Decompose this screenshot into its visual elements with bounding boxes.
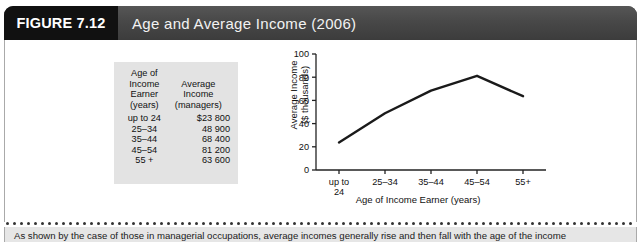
cell-category: 35–44 — [122, 134, 167, 145]
figure-container: FIGURE 7.12 Age and Average Income (2006… — [0, 0, 641, 242]
figure-caption: As shown by the case of those in manager… — [4, 227, 637, 242]
table-header-row: Age of Income Earner (years) Average Inc… — [122, 68, 230, 110]
table-row: 55 + 63 600 — [122, 155, 230, 166]
table-header-income: Average Income (managers) — [167, 68, 230, 110]
cell-income: 68 400 — [167, 134, 230, 145]
cell-income: 81 200 — [167, 145, 230, 156]
table-body: up to 24 $23 800 25–34 48 900 35–44 68 4… — [122, 110, 230, 166]
y-tick-label: 0 — [304, 165, 309, 175]
line-chart: Average Income ($ thousands) 02040608010… — [260, 48, 560, 213]
table-row: 45–54 81 200 — [122, 145, 230, 156]
header-inc-line2: Income — [167, 89, 230, 100]
table-head: Age of Income Earner (years) Average Inc… — [122, 68, 230, 110]
x-tick-label: 55+ — [515, 177, 531, 187]
x-tick-label: up to — [329, 177, 349, 187]
data-table: Age of Income Earner (years) Average Inc… — [122, 68, 230, 166]
cell-category: up to 24 — [122, 110, 167, 124]
y-tick-label: 60 — [299, 96, 309, 106]
table-header-category: Age of Income Earner (years) — [122, 68, 167, 110]
header-cat-line1: Age of — [122, 68, 167, 79]
table-row: up to 24 $23 800 — [122, 110, 230, 124]
figure-number-badge: FIGURE 7.12 — [4, 6, 118, 40]
data-table-container: Age of Income Earner (years) Average Inc… — [114, 62, 238, 184]
figure-header: FIGURE 7.12 Age and Average Income (2006… — [4, 6, 637, 40]
y-tick-label: 20 — [299, 142, 309, 152]
x-tick-label: 25–34 — [372, 177, 398, 187]
table-row: 35–44 68 400 — [122, 134, 230, 145]
x-tick-label: 45–54 — [464, 177, 490, 187]
header-inc-line1: Average — [167, 79, 230, 90]
cell-category: 55 + — [122, 155, 167, 166]
caption-text: As shown by the case of those in manager… — [5, 227, 636, 241]
header-cat-line4: (years) — [122, 100, 167, 111]
y-tick-label: 40 — [299, 119, 309, 129]
data-series-line — [339, 76, 523, 143]
cell-category: 45–54 — [122, 145, 167, 156]
figure-title: Age and Average Income (2006) — [132, 6, 356, 40]
plot-svg: 020406080100up to2425–3435–4445–5455+ — [290, 48, 552, 198]
figure-body: Age of Income Earner (years) Average Inc… — [4, 40, 637, 222]
table-row: 25–34 48 900 — [122, 124, 230, 135]
cell-income: 48 900 — [167, 124, 230, 135]
cell-category: 25–34 — [122, 124, 167, 135]
x-tick-label: 35–44 — [418, 177, 444, 187]
cell-income: 63 600 — [167, 155, 230, 166]
x-axis-title: Age of Income Earner (years) — [298, 194, 538, 205]
plot-area-wrapper: 020406080100up to2425–3435–4445–5455+ — [290, 48, 552, 202]
figure-number-label: FIGURE 7.12 — [16, 15, 105, 31]
header-cat-line3: Earner — [122, 89, 167, 100]
dotted-divider — [4, 222, 637, 225]
cell-income: $23 800 — [167, 110, 230, 124]
header-cat-line2: Income — [122, 79, 167, 90]
header-inc-line3: (managers) — [167, 100, 230, 111]
y-tick-label: 100 — [294, 49, 309, 59]
y-tick-label: 80 — [299, 73, 309, 83]
